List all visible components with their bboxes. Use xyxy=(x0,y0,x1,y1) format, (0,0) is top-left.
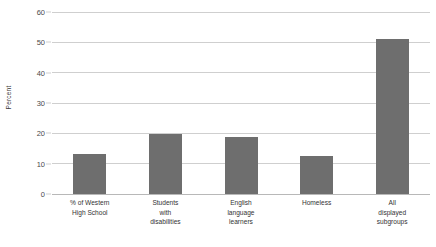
y-axis-tick-label: 30 xyxy=(37,99,45,108)
bar xyxy=(300,156,333,194)
bar xyxy=(225,137,258,194)
y-axis-tick-label: 60 xyxy=(37,8,45,17)
y-axis-tick-label: 20 xyxy=(37,129,45,138)
x-axis-category-label: Studentswithdisabilities xyxy=(128,198,204,227)
bar xyxy=(149,134,182,194)
x-axis-category-label-line: % of Western xyxy=(52,198,128,208)
y-axis-tick-mark xyxy=(46,12,51,13)
y-axis-tick-mark xyxy=(46,103,51,104)
x-axis-category-label-line: language xyxy=(203,208,279,218)
bar xyxy=(376,39,409,194)
y-axis-tick-mark xyxy=(46,133,51,134)
x-axis-category-label-line: displayed xyxy=(354,208,430,218)
x-axis-category-label: Homeless xyxy=(279,198,355,208)
x-axis-category-label-line: English xyxy=(203,198,279,208)
y-axis-title-text: Percent xyxy=(6,86,13,110)
y-axis-title: Percent xyxy=(0,0,18,195)
x-axis-category-label-line: learners xyxy=(203,217,279,227)
x-axis-category-label-line: with xyxy=(128,208,204,218)
y-axis-tick-label: 50 xyxy=(37,38,45,47)
y-axis-tick-mark xyxy=(46,42,51,43)
x-axis-category-label-line: High School xyxy=(52,208,128,218)
x-axis-category-label: Alldisplayedsubgroups xyxy=(354,198,430,227)
x-axis-category-labels: % of WesternHigh SchoolStudentswithdisab… xyxy=(52,198,430,244)
x-axis-category-label: Englishlanguagelearners xyxy=(203,198,279,227)
x-axis-category-label-line: disabilities xyxy=(128,217,204,227)
x-axis-category-label-line: All xyxy=(354,198,430,208)
x-axis-category-label-line: Students xyxy=(128,198,204,208)
bar xyxy=(73,154,106,194)
y-axis-tick-mark xyxy=(46,72,51,73)
plot-area: 0102030405060 xyxy=(52,12,430,194)
y-axis-tick-label: 10 xyxy=(37,159,45,168)
bars xyxy=(52,12,430,194)
x-axis-category-label: % of WesternHigh School xyxy=(52,198,128,217)
y-axis-tick-mark xyxy=(46,163,51,164)
y-axis-tick-label: 40 xyxy=(37,68,45,77)
y-axis-tick-mark xyxy=(46,194,51,195)
x-axis-category-label-line: Homeless xyxy=(279,198,355,208)
y-axis-tick-label: 0 xyxy=(41,190,45,199)
x-axis-category-label-line: subgroups xyxy=(354,217,430,227)
bar-chart: Percent 0102030405060 % of WesternHigh S… xyxy=(0,0,436,247)
